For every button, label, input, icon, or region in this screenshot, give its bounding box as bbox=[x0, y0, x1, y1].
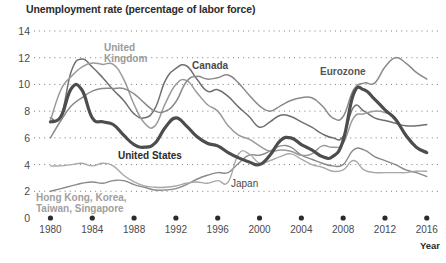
x-axis-tick-label: 2008 bbox=[323, 224, 363, 235]
x-axis-tick-label: 2012 bbox=[365, 224, 405, 235]
series-line-united-kingdom bbox=[50, 63, 426, 156]
series-label-canada: Canada bbox=[192, 60, 228, 71]
x-axis-tick-dot bbox=[341, 215, 346, 220]
series-label-united-states: United States bbox=[118, 150, 182, 161]
x-axis-title: Year bbox=[420, 240, 440, 251]
x-axis-tick-dot bbox=[48, 215, 53, 220]
x-axis-tick-label: 1988 bbox=[114, 224, 154, 235]
chart-figure: Unemployment rate (percentage of labor f… bbox=[0, 0, 446, 263]
x-axis-tick-label: 1996 bbox=[198, 224, 238, 235]
uk-label-line-1: United bbox=[104, 42, 135, 53]
series-label-japan: Japan bbox=[231, 178, 258, 189]
x-axis-tick-dot bbox=[257, 215, 262, 220]
series-label-eurozone: Eurozone bbox=[320, 66, 366, 77]
tigers-label-line-2: Taiwan, Singapore bbox=[36, 203, 124, 214]
x-axis-tick-dot bbox=[382, 215, 387, 220]
x-axis-tick-dot bbox=[173, 215, 178, 220]
y-axis-tick-label: 6 bbox=[8, 132, 30, 144]
series-label-united-kingdom: UnitedKingdom bbox=[104, 42, 147, 64]
x-axis-tick-label: 1984 bbox=[72, 224, 112, 235]
x-axis-tick-label: 1980 bbox=[30, 224, 70, 235]
x-axis-tick-label: 2016 bbox=[407, 224, 446, 235]
series-line-canada bbox=[50, 59, 426, 140]
y-axis-tick-label: 14 bbox=[8, 25, 30, 37]
x-axis-tick-label: 2004 bbox=[281, 224, 321, 235]
x-axis-tick-label: 2000 bbox=[240, 224, 280, 235]
y-axis-tick-label: 4 bbox=[8, 159, 30, 171]
x-axis-tick-label: 1992 bbox=[156, 224, 196, 235]
x-axis-tick-dot bbox=[424, 215, 429, 220]
y-axis-tick-label: 8 bbox=[8, 105, 30, 117]
y-axis-tick-label: 12 bbox=[8, 52, 30, 64]
y-axis-tick-label: 10 bbox=[8, 78, 30, 90]
x-axis-tick-dot bbox=[131, 215, 136, 220]
x-axis-tick-dot bbox=[215, 215, 220, 220]
y-axis-tick-label: 2 bbox=[8, 185, 30, 197]
x-axis-tick-dot bbox=[299, 215, 304, 220]
uk-label-line-2: Kingdom bbox=[104, 53, 147, 64]
x-axis-tick-dot bbox=[90, 215, 95, 220]
series-line-eurozone bbox=[50, 58, 426, 138]
y-axis-tick-label: 0 bbox=[8, 212, 30, 224]
series-label-asian-tigers: Hong Kong, Korea,Taiwan, Singapore bbox=[36, 192, 127, 214]
tigers-label-line-1: Hong Kong, Korea, bbox=[36, 192, 127, 203]
